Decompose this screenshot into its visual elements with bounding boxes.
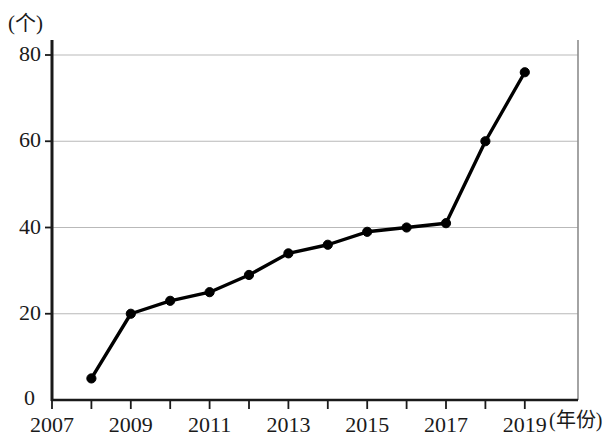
data-point-2008 [87, 374, 96, 383]
data-point-2016 [402, 223, 411, 232]
data-point-2015 [363, 227, 372, 236]
line-chart: (个) (年份) 0 20406080 20072009201120132015… [0, 0, 612, 432]
axis-lines [51, 40, 578, 401]
plot-area [0, 0, 612, 432]
x-axis-ticks [52, 400, 525, 409]
data-point-2019 [520, 68, 529, 77]
data-series-line [91, 72, 524, 378]
data-point-2018 [481, 137, 490, 146]
data-point-2012 [244, 270, 253, 279]
gridlines [52, 55, 578, 314]
data-point-2009 [126, 309, 135, 318]
data-point-2014 [323, 240, 332, 249]
data-point-2010 [166, 296, 175, 305]
data-point-2017 [441, 219, 450, 228]
data-point-2011 [205, 288, 214, 297]
data-point-markers [87, 68, 530, 383]
data-point-2013 [284, 249, 293, 258]
